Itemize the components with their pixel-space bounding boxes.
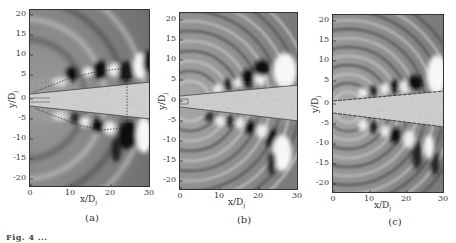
ytick: -5 (10, 114, 26, 122)
panel-label-a: (a) (77, 212, 107, 223)
ytick: 5 (10, 70, 26, 78)
plot-area-a (29, 9, 150, 187)
contour-field-a (30, 10, 150, 187)
x-axis-label: x/Dj (374, 200, 391, 211)
plot-area-c (332, 14, 444, 193)
y-axis-label: y/Dj (157, 93, 168, 110)
figure-caption: Fig. 4 ... (6, 232, 48, 242)
ytick: -15 (10, 154, 26, 162)
ytick: -10 (313, 139, 329, 147)
ytick: -20 (10, 174, 26, 182)
ytick: -5 (313, 119, 329, 127)
xtick: 10 (211, 192, 227, 200)
xtick: 0 (22, 189, 38, 197)
ytick: 15 (160, 35, 176, 43)
contour-field-b (180, 13, 298, 190)
y-axis-label: y/Dj (310, 96, 321, 113)
panel-label-c: (c) (380, 216, 410, 227)
ytick: 5 (160, 75, 176, 83)
xtick: 20 (398, 195, 414, 203)
ytick: 20 (10, 10, 26, 18)
ytick: -20 (160, 176, 176, 184)
plot-area-b (179, 12, 298, 190)
ytick: -10 (10, 134, 26, 142)
x-axis-label: x/Dj (228, 197, 245, 208)
xtick: 20 (102, 189, 118, 197)
xtick: 20 (250, 192, 266, 200)
xtick: 0 (325, 195, 341, 203)
ytick: 20 (160, 15, 176, 23)
ytick: -15 (160, 156, 176, 164)
ytick: 10 (313, 56, 329, 64)
ytick: -5 (160, 116, 176, 124)
ytick: 5 (313, 76, 329, 84)
y-axis-label: y/Dj (7, 91, 18, 108)
panel-label-b: (b) (229, 214, 259, 225)
contour-field-c (333, 15, 444, 193)
xtick: 30 (289, 192, 305, 200)
ytick: 10 (10, 50, 26, 58)
ytick: 15 (10, 30, 26, 38)
ytick: -15 (313, 159, 329, 167)
ytick: -20 (313, 179, 329, 187)
ytick: 10 (160, 55, 176, 63)
xtick: 30 (435, 195, 451, 203)
xtick: 0 (172, 192, 188, 200)
xtick: 10 (62, 189, 78, 197)
ytick: -10 (160, 136, 176, 144)
xtick: 30 (141, 189, 157, 197)
ytick: 15 (313, 36, 329, 44)
x-axis-label: x/Dj (80, 194, 97, 205)
ytick: 20 (313, 16, 329, 24)
